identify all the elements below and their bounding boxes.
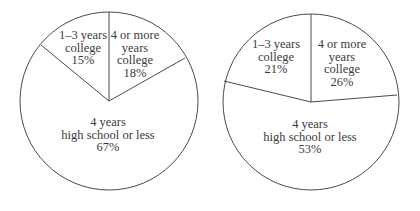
pie-chart-right [210,0,420,211]
slice-label-4plus-college-right: 4 or more years college 26% [318,38,367,88]
label-line: college [111,54,160,67]
label-line: 1–3 years [59,29,107,42]
label-line: 4 years [61,116,154,129]
label-line: college [318,63,367,76]
label-line: 4 or more [318,38,367,51]
label-line: 4 or more [111,29,160,42]
slice-label-1-3-college-left: 1–3 years college 15% [59,29,107,67]
slice-label-high-school-right: 4 years high school or less 53% [263,118,356,156]
slice-label-high-school-left: 4 years high school or less 67% [61,116,154,154]
label-line: 26% [318,76,367,89]
label-line: 67% [61,141,154,154]
slice-label-1-3-college-right: 1–3 years college 21% [252,38,300,76]
slice-label-4plus-college-left: 4 or more years college 18% [111,29,160,79]
label-line: 18% [111,67,160,80]
label-line: 21% [252,63,300,76]
label-line: 1–3 years [252,38,300,51]
label-line: 4 years [263,118,356,131]
label-line: 53% [263,143,356,156]
label-line: 15% [59,54,107,67]
